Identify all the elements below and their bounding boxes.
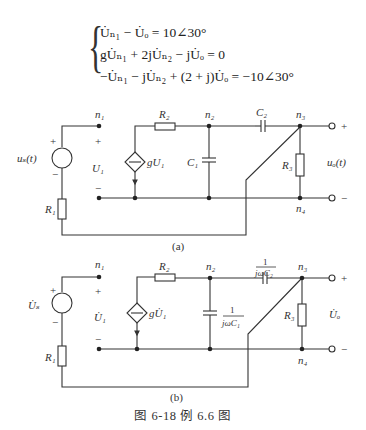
- circuit-diagrams: n₁ R₂ n₂ C₂ n₃ + − uₛ(t) + − U₁ gU₁ C₁ R…: [0, 0, 366, 430]
- label-r3: R₃: [283, 309, 295, 321]
- voltage-source-icon: [52, 293, 72, 313]
- node-n4-dot: [300, 347, 305, 352]
- node-n1-minus-dot: [97, 196, 102, 201]
- label-r1: R₁: [44, 351, 56, 363]
- label-c2: C₂: [256, 106, 267, 118]
- node-n3-dot: [300, 276, 305, 281]
- label-r2: R₂: [158, 260, 170, 272]
- wire-source-top: [62, 277, 99, 292]
- label-figure-a: (a): [172, 240, 185, 253]
- label-source-plus: +: [50, 284, 56, 296]
- label-u1: U₁: [92, 162, 104, 174]
- resistor-r3: [296, 154, 304, 176]
- label-r1: R₁: [44, 203, 56, 215]
- label-n3: n₃: [296, 108, 306, 120]
- output-terminal-minus: [329, 195, 335, 201]
- label-c2-num: 1: [263, 257, 268, 267]
- node-n1-dot: [97, 124, 102, 129]
- label-n4: n₄: [296, 202, 306, 214]
- label-source: uₛ(t): [17, 152, 37, 165]
- node-n2-dot: [207, 124, 212, 129]
- node-dot: [135, 347, 140, 352]
- label-u1: U̇₁: [94, 311, 106, 323]
- output-terminal-plus: [329, 123, 335, 129]
- label-u1-plus: +: [95, 135, 101, 147]
- label-source-minus: −: [52, 168, 58, 180]
- node-dot: [208, 347, 213, 352]
- label-n2: n₂: [206, 260, 216, 272]
- wire-dep-top: [137, 277, 155, 303]
- resistor-r2: [155, 274, 175, 281]
- node-n1-minus-dot: [97, 347, 102, 352]
- output-terminal-minus: [329, 346, 335, 352]
- label-n1: n₁: [95, 258, 105, 270]
- arrow-down-icon: [133, 180, 137, 184]
- output-terminal-plus: [329, 275, 335, 281]
- label-n3: n₃: [298, 260, 308, 272]
- node-n3-dot: [298, 124, 303, 129]
- resistor-r2: [155, 123, 175, 130]
- label-c1: C₁: [187, 156, 198, 168]
- label-n1: n₁: [95, 108, 105, 120]
- node-n2-dot: [208, 276, 213, 281]
- resistor-r1: [58, 199, 66, 219]
- label-source-plus: +: [50, 135, 56, 147]
- wire-dep-top: [135, 126, 155, 152]
- circuit-a-nodes: [97, 124, 303, 201]
- node-n4-dot: [298, 196, 303, 201]
- label-c1-num: 1: [230, 305, 235, 315]
- label-n4: n₄: [298, 354, 308, 366]
- voltage-source-icon: [52, 148, 72, 168]
- label-r3: R₃: [281, 159, 293, 171]
- circuit-b-nodes: [97, 275, 305, 352]
- circuit-a-labels: n₁ R₂ n₂ C₂ n₃ + − uₛ(t) + − U₁ gU₁ C₁ R…: [17, 106, 347, 253]
- label-source: U̇ₛ: [28, 299, 40, 311]
- resistor-r3: [298, 304, 306, 326]
- arrow-down-icon: [135, 331, 139, 335]
- label-source-minus: −: [52, 316, 58, 328]
- label-dep-source: gU̇₁: [149, 307, 166, 319]
- label-u1-plus: +: [95, 285, 101, 297]
- resistor-r1: [58, 346, 66, 366]
- label-output: U̇ₒ: [329, 308, 340, 320]
- label-output-minus: −: [341, 343, 347, 355]
- label-u1-minus: −: [95, 182, 101, 194]
- label-c2-den: jωC₂: [254, 268, 273, 278]
- wire-source-top: [62, 126, 99, 147]
- node-dot: [133, 196, 138, 201]
- label-r2: R₂: [158, 108, 170, 120]
- node-n1-dot: [97, 275, 102, 280]
- label-n2: n₂: [205, 108, 215, 120]
- label-c1-den: jωC₁: [221, 318, 240, 328]
- figure-caption: 图 6-18 例 6.6 图: [0, 405, 366, 424]
- node-dot: [207, 196, 212, 201]
- label-output-minus: −: [341, 192, 347, 204]
- label-figure-b: (b): [170, 391, 183, 404]
- label-dep-source: gU₁: [147, 156, 164, 168]
- label-output-plus: +: [341, 272, 347, 284]
- label-output: uₒ(t): [327, 156, 346, 169]
- label-u1-minus: −: [95, 333, 101, 345]
- circuit-b-labels: n₁ R₂ n₂ 1 jωC₂ n₃ + − U̇ₛ + − U̇₁ gU̇₁ …: [28, 257, 347, 404]
- label-output-plus: +: [341, 120, 347, 132]
